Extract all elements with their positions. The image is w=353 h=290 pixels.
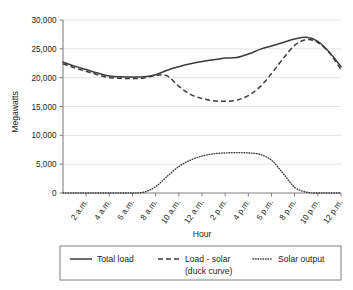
y-tick-label: 30,000	[31, 16, 56, 25]
x-tick-label: 10 a.m.	[159, 198, 182, 226]
y-tick-label: 0	[52, 189, 57, 198]
x-tick-label: 12 p.m.	[322, 198, 345, 226]
series-lines	[63, 37, 341, 193]
duck-curve-chart: 05,00010,00015,00020,00025,00030,000 2 a…	[0, 0, 353, 290]
legend-label-solar-output: Solar output	[278, 254, 325, 264]
gridlines	[63, 20, 341, 164]
y-tick-label: 5,000	[36, 160, 57, 169]
legend: Total load Load - solar (duck curve) Sol…	[60, 246, 341, 280]
x-tick-label: 8 a.m.	[139, 198, 159, 222]
x-tick-label: 4 p.m.	[232, 198, 252, 222]
x-tick-label: 6 p.m.	[255, 198, 275, 222]
x-axis-ticks: 2 a.m.4 a.m.6 a.m.8 a.m.10 a.m.12 a.m.2 …	[69, 193, 344, 226]
y-axis-title: Megawatts	[10, 91, 20, 133]
x-tick-label: 6 a.m.	[116, 198, 136, 222]
series-line-solar-output	[63, 153, 341, 193]
y-axis-ticks: 05,00010,00015,00020,00025,00030,000	[31, 16, 63, 198]
x-axis-title: Hour	[193, 229, 212, 239]
y-tick-label: 25,000	[31, 45, 56, 54]
chart-canvas: 05,00010,00015,00020,00025,00030,000 2 a…	[0, 0, 353, 290]
legend-label-duck-curve-sub: (duck curve)	[185, 266, 232, 276]
x-tick-label: 2 p.m.	[208, 198, 228, 222]
x-tick-label: 10 p.m.	[298, 198, 321, 226]
x-tick-label: 4 a.m.	[93, 198, 113, 222]
legend-label-duck-curve: Load - solar	[185, 254, 231, 264]
x-tick-label: 2 a.m.	[69, 198, 89, 222]
y-tick-label: 20,000	[31, 74, 56, 83]
y-tick-label: 15,000	[31, 103, 56, 112]
series-line-total-load	[63, 37, 341, 77]
legend-label-total-load: Total load	[97, 254, 134, 264]
y-tick-label: 10,000	[31, 131, 56, 140]
x-tick-label: 8 p.m.	[278, 198, 298, 222]
x-tick-label: 12 a.m.	[183, 198, 206, 226]
